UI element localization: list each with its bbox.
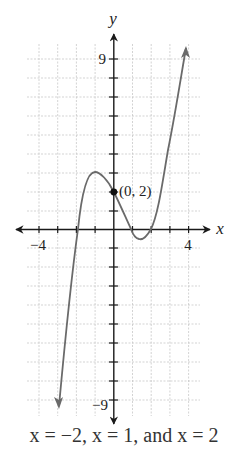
point-label: (0, 2) <box>119 183 152 200</box>
x-axis-label: x <box>215 219 224 238</box>
cubic-curve <box>59 48 186 406</box>
y-intercept-point <box>110 189 117 196</box>
x-tick-label-min: −4 <box>30 237 46 253</box>
cubic-graph: y x −4 4 9 −9 (0, 2) <box>0 0 248 453</box>
y-axis-label: y <box>107 9 117 28</box>
y-tick-label-min: −9 <box>92 397 108 413</box>
curve-arrow-down <box>54 397 63 409</box>
y-tick-label-max: 9 <box>99 51 107 67</box>
caption: x = −2, x = 1, and x = 2 <box>0 424 248 447</box>
x-tick-label-max: 4 <box>184 237 192 253</box>
